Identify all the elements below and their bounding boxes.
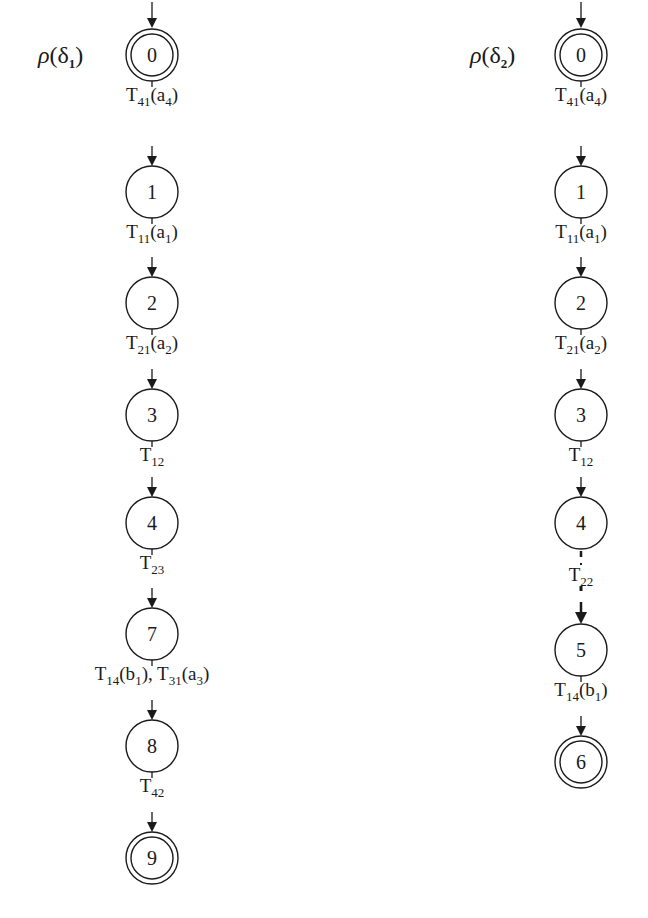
transition-1-to-2: T11​(a1​) <box>126 218 178 277</box>
automaton-title: ρ(δ1) <box>37 42 83 71</box>
state-label: 2 <box>147 292 157 314</box>
transition-label: T42​ <box>140 775 165 800</box>
transition-label: T41​(a4​) <box>555 84 607 109</box>
arrowhead-icon <box>147 710 157 720</box>
state-6: 6 <box>555 736 607 788</box>
state-label: 0 <box>147 44 157 66</box>
state-label: 4 <box>147 512 157 534</box>
transition-5-to-6: T14​(b1​) <box>554 676 607 736</box>
automaton-title: ρ(δ2) <box>469 42 515 71</box>
automaton-1: ρ(δ1)T41​(a4​)T11​(a1​)T21​(a2​)T12​T23​… <box>37 2 209 884</box>
transition-label: T41​(a4​) <box>126 84 178 109</box>
transition-4-to-7: T23​ <box>140 549 165 608</box>
state-1: 1 <box>555 166 607 218</box>
arrowhead-icon <box>147 598 157 608</box>
state-2: 2 <box>555 277 607 329</box>
state-label: 3 <box>576 404 586 426</box>
arrowhead-icon <box>576 18 586 28</box>
arrowhead-icon <box>147 267 157 277</box>
arrowhead-icon <box>147 156 157 166</box>
state-1: 1 <box>126 166 178 218</box>
arrowhead-icon <box>147 379 157 389</box>
arrowhead-icon <box>147 18 157 28</box>
arrowhead-icon <box>147 487 157 497</box>
rho-symbol: ρ <box>37 42 50 68</box>
state-2: 2 <box>126 277 178 329</box>
state-label: 0 <box>576 44 586 66</box>
transition-3-to-4: T12​ <box>569 441 594 497</box>
transition-label: T12​ <box>569 444 594 469</box>
state-label: 1 <box>576 181 586 203</box>
state-4: 4 <box>126 497 178 549</box>
transition-3-to-4: T12​ <box>140 441 165 497</box>
transition-label: T14​(b1​) <box>554 679 607 704</box>
arrowhead-icon <box>576 267 586 277</box>
state-label: 7 <box>147 623 157 645</box>
transition-label: T22​ <box>569 564 594 589</box>
transition-7-to-8: T14​(b1​), T31​(a3​) <box>95 660 210 720</box>
transition-label: T12​ <box>140 444 165 469</box>
state-label: 4 <box>576 512 586 534</box>
state-label: 8 <box>147 735 157 757</box>
state-0: 0 <box>126 29 178 81</box>
arrowhead-icon <box>576 726 586 736</box>
state-0: 0 <box>555 29 607 81</box>
transition-4-to-5: T22​ <box>569 551 594 624</box>
rho-symbol: ρ <box>469 42 482 68</box>
state-9: 9 <box>126 832 178 884</box>
state-8: 8 <box>126 720 178 772</box>
transition-label: T21​(a2​) <box>555 332 607 357</box>
arrowhead-icon <box>575 612 587 624</box>
transition-label: T21​(a2​) <box>126 332 178 357</box>
transition-0-to-1: T41​(a4​) <box>126 81 178 166</box>
state-5: 5 <box>555 624 607 676</box>
transition-label: T23​ <box>140 552 165 577</box>
automata-diagram-canvas: ρ(δ1)T41​(a4​)T11​(a1​)T21​(a2​)T12​T23​… <box>0 0 648 918</box>
transition-label: T14​(b1​), T31​(a3​) <box>95 663 210 688</box>
state-label: 9 <box>147 847 157 869</box>
transition-2-to-3: T21​(a2​) <box>126 329 178 389</box>
arrowhead-icon <box>576 156 586 166</box>
state-label: 5 <box>576 639 586 661</box>
state-label: 2 <box>576 292 586 314</box>
state-3: 3 <box>555 389 607 441</box>
transition-label: T11​(a1​) <box>555 221 607 246</box>
arrowhead-icon <box>147 822 157 832</box>
automaton-2: ρ(δ2)T41​(a4​)T11​(a1​)T21​(a2​)T12​T22​… <box>469 2 608 788</box>
state-7: 7 <box>126 608 178 660</box>
arrowhead-icon <box>576 487 586 497</box>
state-label: 1 <box>147 181 157 203</box>
transition-label: T11​(a1​) <box>126 221 178 246</box>
state-3: 3 <box>126 389 178 441</box>
transition-1-to-2: T11​(a1​) <box>555 218 607 277</box>
state-label: 3 <box>147 404 157 426</box>
transition-2-to-3: T21​(a2​) <box>555 329 607 389</box>
arrowhead-icon <box>576 379 586 389</box>
transition-0-to-1: T41​(a4​) <box>555 81 607 166</box>
transition-8-to-9: T42​ <box>140 772 165 832</box>
state-label: 6 <box>576 751 586 773</box>
state-4: 4 <box>555 497 607 549</box>
